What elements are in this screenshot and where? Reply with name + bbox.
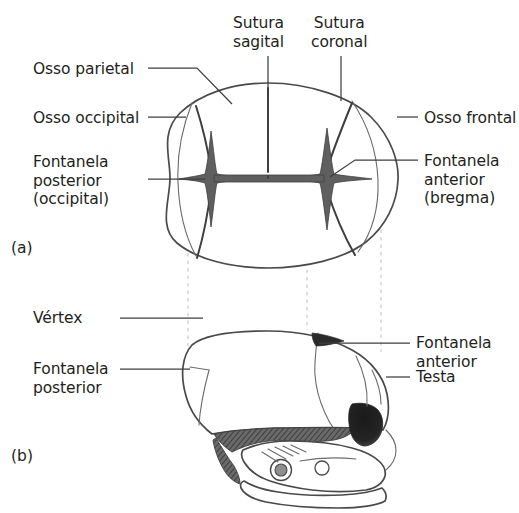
label-osso-occipital: Osso occipital — [33, 109, 139, 128]
skull-figure: Osso parietal Osso occipital Fontanela p… — [0, 0, 519, 513]
label-fontanela-posterior-b: Fontanela posterior — [33, 360, 109, 397]
label-fontanela-anterior-b: Fontanela anterior — [416, 334, 492, 371]
label-vertex: Vértex — [33, 309, 82, 328]
nasal-maxilla-edge — [386, 430, 396, 470]
label-fontanela-posterior-a: Fontanela posterior (occipital) — [33, 153, 109, 209]
label-osso-parietal: Osso parietal — [33, 60, 134, 79]
panel-b-lateral-view — [183, 331, 396, 508]
caption-clipped — [0, 504, 519, 513]
orbit-socket — [349, 403, 383, 446]
facial-skeleton-lateral — [242, 441, 386, 492]
label-sutura-sagital: Sutura sagital — [233, 14, 284, 51]
label-fontanela-anterior-a: Fontanela anterior (bregma) — [424, 152, 500, 208]
label-sutura-coronal: Sutura coronal — [311, 14, 367, 51]
label-osso-frontal: Osso frontal — [424, 109, 516, 128]
tympanic-ring — [271, 460, 292, 481]
panel-id-a: (a) — [11, 239, 33, 257]
panel-a-superior-view — [166, 83, 398, 268]
mandibular-condyle — [315, 461, 329, 475]
panel-id-b: (b) — [11, 447, 33, 465]
label-testa: Testa — [416, 368, 456, 387]
